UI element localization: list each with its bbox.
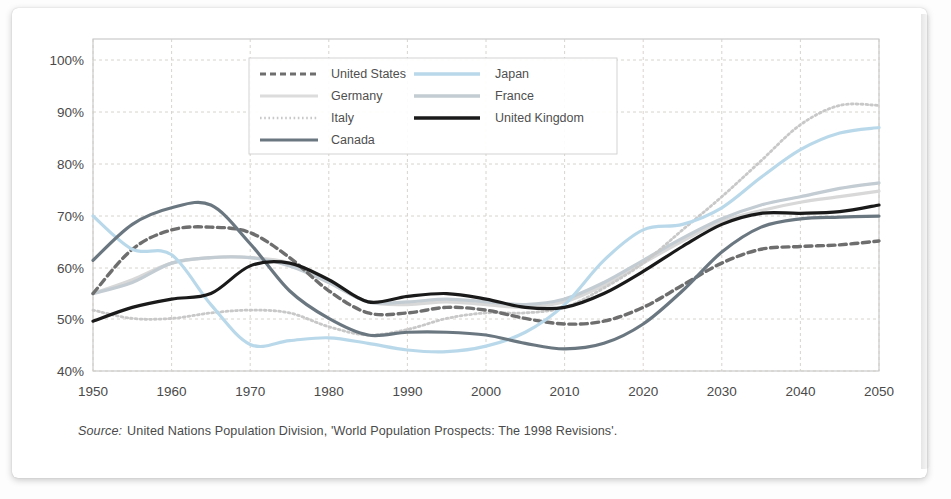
x-tick-label: 1970 [235,384,265,399]
source-text: United Nations Population Division, 'Wor… [127,424,617,438]
legend-label-united-states: United States [331,67,406,81]
legend: United States Germany Italy Canada Japan… [249,58,617,154]
legend-label-canada: Canada [331,133,375,147]
x-tick-label: 1990 [392,384,422,399]
y-tick-label: 80% [57,157,84,172]
legend-label-france: France [495,89,534,103]
scanned-page: 100% 90% 80% 70% 60% 50% 40% 1950 1960 1… [0,0,951,499]
x-tick-label: 2050 [864,384,894,399]
x-tick-label: 2040 [785,384,815,399]
x-tick-label: 2030 [707,384,737,399]
legend-label-united-kingdom: United Kingdom [495,111,584,125]
y-tick-label: 90% [57,105,84,120]
y-tick-label: 50% [57,312,84,327]
source-note: Source:United Nations Population Divisio… [78,424,878,438]
x-tick-label: 1980 [314,384,344,399]
x-tick-label: 1950 [78,384,108,399]
source-prefix: Source: [78,424,122,438]
legend-label-japan: Japan [495,67,529,81]
y-tick-label: 70% [57,209,84,224]
legend-label-italy: Italy [331,111,355,125]
x-axis-ticks: 1950 1960 1970 1980 1990 2000 2010 2020 … [78,384,894,399]
x-tick-label: 2010 [550,384,580,399]
legend-label-germany: Germany [331,89,383,103]
y-axis-ticks: 100% 90% 80% 70% 60% 50% 40% [49,53,84,379]
y-tick-label: 100% [49,53,84,68]
x-tick-label: 2000 [471,384,501,399]
y-tick-label: 40% [57,364,84,379]
x-tick-label: 1960 [157,384,187,399]
x-tick-label: 2020 [628,384,658,399]
y-tick-label: 60% [57,261,84,276]
